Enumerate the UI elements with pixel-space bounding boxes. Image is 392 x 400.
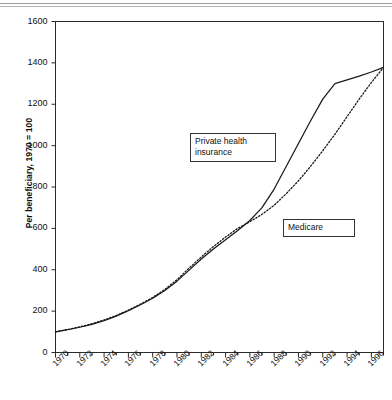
y-tick-label: 200 — [14, 306, 48, 315]
annotation-private-line2: insurance — [195, 147, 271, 158]
y-tick-label: 0 — [14, 348, 48, 357]
annotation-private-line1: Private health — [195, 136, 271, 147]
y-tick-label: 400 — [14, 265, 48, 274]
y-tick-label: 1200 — [14, 99, 48, 108]
chart-series-group — [56, 67, 384, 331]
chart-axes — [52, 22, 384, 358]
series-line-medicare — [56, 67, 384, 331]
chart-page: Per beneficiary, 1970 = 100 020040060080… — [0, 0, 392, 400]
y-tick-label: 1000 — [14, 141, 48, 150]
annotation-medicare: Medicare — [283, 219, 355, 237]
line-chart — [0, 0, 392, 400]
y-tick-label: 1600 — [14, 17, 48, 26]
y-tick-label: 600 — [14, 223, 48, 232]
y-tick-label: 800 — [14, 182, 48, 191]
annotation-medicare-line1: Medicare — [288, 222, 350, 233]
annotation-private-health-insurance: Private health insurance — [190, 133, 276, 162]
series-line-private-health-insurance — [56, 67, 384, 331]
y-tick-label: 1400 — [14, 58, 48, 67]
